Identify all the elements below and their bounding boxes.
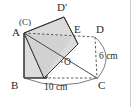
vertex-label-e: E [74, 24, 81, 35]
vertex-label-d: D [96, 24, 104, 35]
dimension-label-base: 10 cm [44, 83, 67, 93]
dashed-d-c [95, 37, 97, 78]
vertex-label-a: A [12, 27, 20, 38]
vertex-label-d-prime: D′ [57, 2, 67, 13]
point-label-o: O [64, 58, 71, 68]
vertex-label-c-paren: (C) [19, 18, 31, 27]
figure-canvas: A (C) D′ E D O B C 10 cm 6 cm [0, 0, 138, 107]
point-o-marker [61, 61, 63, 63]
vertex-label-c: C [98, 80, 105, 91]
dimension-label-height: 6 cm [99, 52, 118, 62]
vertex-label-b: B [11, 80, 18, 91]
